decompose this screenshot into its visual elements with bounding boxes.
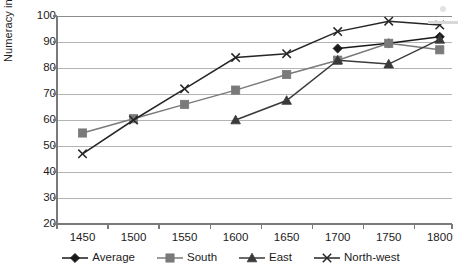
marker-square [385,39,393,47]
legend-square-icon [157,251,183,265]
legend-item-north-west[interactable]: North-west [314,251,400,265]
numeracy-line-chart: Numeracy in % 1009080706050403020 145015… [0,0,462,277]
scan-artifact-bar [428,21,458,24]
legend-cross-icon [314,251,340,265]
marker-square [180,100,188,108]
legend-label: Average [92,252,135,264]
legend-label: North-west [344,252,400,264]
legend-label: East [269,252,292,264]
marker-square [283,70,291,78]
legend-item-average[interactable]: Average [62,251,135,265]
marker-square [436,46,444,54]
legend-item-south[interactable]: South [157,251,217,265]
legend-diamond-icon [62,251,88,265]
series-south [78,39,443,137]
marker-cross [78,150,86,158]
scan-artifact-dot [440,6,446,12]
legend-triangle-icon [239,251,265,265]
legend-item-east[interactable]: East [239,251,292,265]
marker-diamond [71,253,80,262]
marker-cross [180,85,188,93]
plot-area [0,0,462,277]
legend-label: South [187,252,217,264]
series-north-west [78,17,444,158]
chart-legend: AverageSouthEastNorth-west [0,251,462,265]
marker-square [232,86,240,94]
marker-diamond [333,44,342,53]
marker-square [78,129,86,137]
marker-square [166,254,174,262]
